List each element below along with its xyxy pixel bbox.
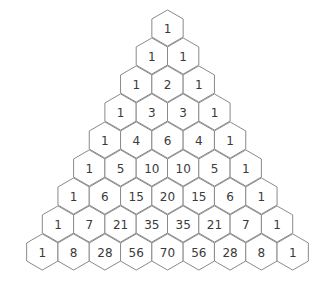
cell-value: 5 xyxy=(211,162,219,176)
cell-value: 5 xyxy=(117,162,125,176)
cell-value: 1 xyxy=(164,22,172,36)
triangle-row-4: 14641 xyxy=(89,122,246,158)
triangle-row-2: 121 xyxy=(121,66,215,102)
cell-value: 1 xyxy=(70,190,78,204)
cell-value: 1 xyxy=(258,190,266,204)
cell-value: 1 xyxy=(289,246,297,260)
cell-value: 10 xyxy=(176,162,191,176)
cell-value: 21 xyxy=(207,218,222,232)
triangle-row-8: 18285670562881 xyxy=(27,234,309,270)
cell-value: 7 xyxy=(242,218,250,232)
cell-value: 35 xyxy=(176,218,191,232)
cell-value: 4 xyxy=(132,134,140,148)
cell-value: 6 xyxy=(226,190,234,204)
cell-value: 1 xyxy=(54,218,62,232)
cell-value: 56 xyxy=(129,246,144,260)
pascal-triangle: 1111211331146411510105116152015611721353… xyxy=(0,0,324,284)
cell-value: 3 xyxy=(179,106,187,120)
cell-value: 1 xyxy=(211,106,219,120)
cell-value: 20 xyxy=(160,190,175,204)
cell-value: 15 xyxy=(191,190,206,204)
cell-value: 28 xyxy=(97,246,112,260)
cell-value: 1 xyxy=(195,78,203,92)
cell-value: 7 xyxy=(85,218,93,232)
cell-value: 1 xyxy=(101,134,109,148)
cell-value: 35 xyxy=(144,218,159,232)
cell-value: 3 xyxy=(148,106,156,120)
cell-value: 1 xyxy=(148,50,156,64)
cell-value: 70 xyxy=(160,246,175,260)
cell-value: 10 xyxy=(144,162,159,176)
cell-value: 1 xyxy=(132,78,140,92)
cell-value: 2 xyxy=(164,78,172,92)
cell-value: 1 xyxy=(273,218,281,232)
cell-value: 1 xyxy=(85,162,93,176)
cell-value: 28 xyxy=(222,246,237,260)
cell-value: 1 xyxy=(242,162,250,176)
cell-value: 6 xyxy=(101,190,109,204)
cell-value: 4 xyxy=(195,134,203,148)
cell-value: 21 xyxy=(113,218,128,232)
cell-value: 1 xyxy=(179,50,187,64)
cell-value: 56 xyxy=(191,246,206,260)
cell-value: 8 xyxy=(258,246,266,260)
cell-value: 1 xyxy=(38,246,46,260)
cell-value: 15 xyxy=(129,190,144,204)
cell-value: 1 xyxy=(226,134,234,148)
cell-value: 1 xyxy=(117,106,125,120)
cell-value: 6 xyxy=(164,134,172,148)
cell-value: 8 xyxy=(70,246,78,260)
